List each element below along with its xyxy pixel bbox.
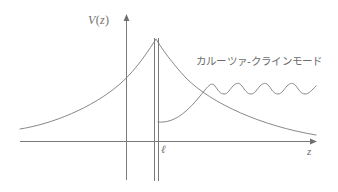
- vertical-axis-arrowhead: [124, 14, 130, 21]
- brane-tick-label: ℓ: [161, 144, 166, 155]
- diagram-canvas: [0, 0, 338, 192]
- potential-diagram-figure: V(z) z ℓ カルーツァ-クラインモード: [0, 0, 338, 192]
- vertical-axis-label-prefix: V: [88, 13, 96, 27]
- horizontal-axis: [20, 139, 317, 145]
- horizontal-axis-arrowhead: [310, 139, 317, 145]
- vertical-axis-label: V(z): [88, 14, 109, 26]
- brane-double-line: [155, 38, 159, 181]
- kaluza-klein-mode-label: カルーツァ-クラインモード: [196, 56, 322, 67]
- vertical-axis: [124, 14, 130, 180]
- potential-curve: [20, 39, 316, 135]
- vertical-axis-label-close: ): [105, 13, 109, 27]
- horizontal-axis-label: z: [307, 146, 311, 157]
- kaluza-klein-mode-curve: [158, 83, 316, 122]
